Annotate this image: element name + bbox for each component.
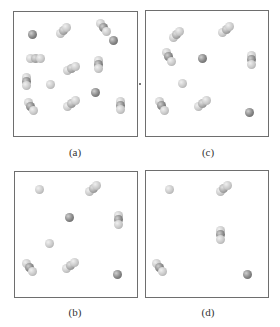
- atom-sphere: [71, 96, 80, 105]
- atom-sphere: [70, 258, 79, 267]
- atom-sphere: [22, 81, 31, 90]
- atom-sphere: [160, 106, 169, 115]
- atom-sphere: [167, 57, 176, 66]
- atom-sphere: [35, 185, 44, 194]
- atom-sphere: [175, 27, 184, 36]
- panel-b: [14, 171, 138, 298]
- panel-d: [145, 170, 269, 298]
- atom-sphere: [29, 106, 38, 115]
- panel-label-c: (c): [188, 146, 228, 158]
- atom-sphere: [65, 213, 74, 222]
- atom-sphere: [165, 185, 174, 194]
- atom-sphere: [202, 96, 211, 105]
- atom-sphere: [109, 36, 118, 45]
- atom-sphere: [116, 105, 125, 114]
- atom-sphere: [36, 54, 45, 63]
- atom-sphere: [247, 60, 256, 69]
- atom-sphere: [216, 235, 225, 244]
- atom-sphere: [223, 181, 232, 190]
- atom-sphere: [46, 80, 55, 89]
- atom-sphere: [94, 64, 103, 73]
- atom-sphere: [92, 181, 101, 190]
- atom-sphere: [28, 30, 37, 39]
- atom-sphere: [113, 270, 122, 279]
- atom-sphere: [91, 88, 100, 97]
- atom-sphere: [178, 79, 187, 88]
- atom-sphere: [158, 267, 167, 276]
- atom-sphere: [102, 27, 111, 36]
- panel-label-d: (d): [188, 306, 228, 318]
- atom-sphere: [245, 108, 254, 117]
- panel-label-b: (b): [55, 306, 95, 318]
- atom-sphere: [114, 220, 123, 229]
- atom-sphere: [225, 22, 234, 31]
- atom-sphere: [45, 239, 54, 248]
- atom-sphere: [71, 62, 80, 71]
- panel-c: [145, 10, 269, 137]
- separator-tick: [139, 83, 141, 85]
- atom-sphere: [28, 267, 37, 276]
- panel-label-a: (a): [55, 146, 95, 158]
- atom-sphere: [243, 270, 252, 279]
- atom-sphere: [198, 54, 207, 63]
- atom-sphere: [62, 23, 71, 32]
